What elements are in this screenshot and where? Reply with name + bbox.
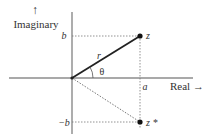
complex-plane-diagram: ↑ Imaginary Real → b −b a r θ z z * xyxy=(0,0,210,137)
imaginary-axis-label: Imaginary xyxy=(13,18,59,30)
label-theta: θ xyxy=(100,66,105,77)
point-z-conjugate xyxy=(137,119,142,124)
label-r: r xyxy=(97,50,101,61)
label-neg-b: −b xyxy=(58,117,70,128)
vector-r xyxy=(72,36,140,78)
conjugate-vector xyxy=(72,78,140,122)
label-z-conjugate: z * xyxy=(145,117,157,128)
imaginary-arrow-icon: ↑ xyxy=(32,3,38,17)
real-axis-label: Real → xyxy=(170,80,204,92)
origin-point xyxy=(70,76,73,79)
label-b: b xyxy=(62,30,67,41)
point-z xyxy=(137,33,142,38)
angle-arc xyxy=(90,67,93,78)
label-a: a xyxy=(143,81,148,92)
label-z: z xyxy=(145,30,150,41)
